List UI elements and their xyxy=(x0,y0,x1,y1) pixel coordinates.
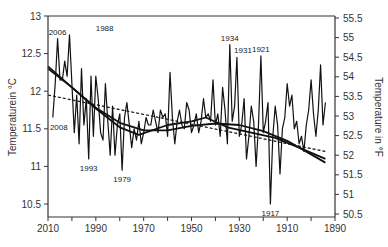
y-right-tick-label: 50.5 xyxy=(343,209,363,220)
year-annotation: 2008 xyxy=(50,123,68,132)
y-tick-label: 12.5 xyxy=(22,48,42,59)
x-tick-label: 1910 xyxy=(276,223,299,234)
y-right-tick-label: 53.5 xyxy=(343,91,363,102)
y-tick-label: 10.5 xyxy=(22,199,42,210)
year-annotation: 1934 xyxy=(221,34,239,43)
y-right-tick-label: 55.5 xyxy=(343,13,363,24)
temperature-chart: 200619882008199319791934193119211917 131… xyxy=(0,0,388,247)
y-right-tick-label: 51 xyxy=(343,189,355,200)
y-tick-label: 11.5 xyxy=(22,123,41,134)
year-annotation: 1979 xyxy=(113,175,131,184)
right-axis-title: Temperature in °F xyxy=(373,77,384,157)
year-annotation: 1931 xyxy=(234,46,252,55)
y-tick-label: 12 xyxy=(30,86,42,97)
x-tick-label: 1930 xyxy=(228,223,251,234)
series-layer xyxy=(48,35,325,204)
x-tick-label: 1890 xyxy=(324,223,347,234)
y-right-tick-label: 52 xyxy=(343,150,355,161)
right-y-axis: 55.55554.55453.55352.55251.55150.5 xyxy=(335,13,363,220)
y-tick-label: 13 xyxy=(30,11,42,22)
left-y-axis: 1312.51211.51110.5 xyxy=(22,11,48,218)
x-tick-label: 2010 xyxy=(37,223,60,234)
y-right-tick-label: 51.5 xyxy=(343,169,363,180)
y-right-tick-label: 54 xyxy=(343,71,355,82)
x-tick-label: 1950 xyxy=(180,223,203,234)
x-tick-label: 1990 xyxy=(85,223,108,234)
left-axis-title: Temperaturein °C xyxy=(7,78,18,156)
x-axis: 2010199019701950193019101890 xyxy=(37,217,347,234)
year-annotation: 2006 xyxy=(49,28,67,37)
x-tick-label: 1970 xyxy=(133,223,156,234)
y-right-tick-label: 54.5 xyxy=(343,52,363,63)
year-annotation: 1988 xyxy=(96,24,114,33)
y-right-tick-label: 52.5 xyxy=(343,130,363,141)
annual-temperature-line xyxy=(53,35,326,204)
year-annotation: 1993 xyxy=(80,164,98,173)
y-right-tick-label: 55 xyxy=(343,32,355,43)
year-annotation: 1921 xyxy=(252,45,270,54)
y-right-tick-label: 53 xyxy=(343,111,355,122)
y-tick-label: 11 xyxy=(31,161,42,172)
